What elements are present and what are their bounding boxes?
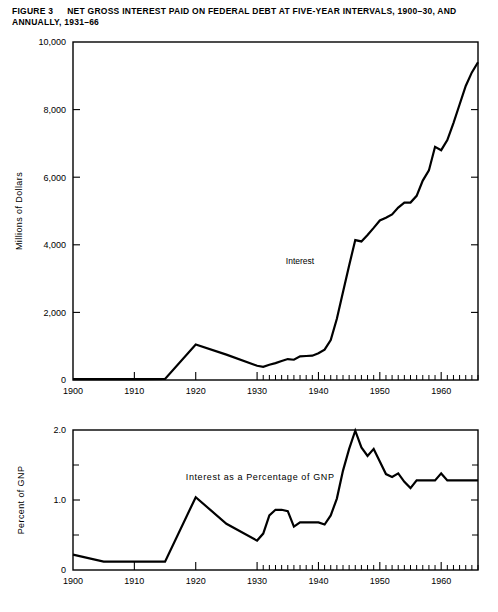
y-tick-label: 2.0 xyxy=(53,425,66,435)
data-line-interest-pct-gnp xyxy=(73,431,478,562)
x-tick-label: 1910 xyxy=(124,386,144,396)
figure-title-text: NET GROSS INTEREST PAID ON FEDERAL DEBT … xyxy=(12,6,456,27)
y-tick-label: 0 xyxy=(61,565,66,575)
figure-number: FIGURE 3 xyxy=(12,6,53,16)
plot-frame xyxy=(73,42,478,380)
y-axis-title: Millions of Dollars xyxy=(14,172,24,250)
x-tick-label: 1920 xyxy=(186,386,206,396)
y-tick-label: 0 xyxy=(61,375,66,385)
y-tick-label: 4,000 xyxy=(43,240,66,250)
chart-interest-dollars: 02,0004,0006,0008,00010,0001900191019201… xyxy=(0,26,498,398)
x-tick-label: 1930 xyxy=(247,576,267,586)
chart-annotation: Interest as a Percentage of GNP xyxy=(186,472,335,482)
x-tick-label: 1910 xyxy=(124,576,144,586)
x-tick-label: 1950 xyxy=(370,386,390,396)
chart-bottom-canvas: 01.02.01900191019201930194019501960Inter… xyxy=(0,412,498,608)
x-tick-label: 1940 xyxy=(308,386,328,396)
x-tick-label: 1900 xyxy=(63,576,83,586)
chart-top-canvas: 02,0004,0006,0008,00010,0001900191019201… xyxy=(0,26,498,398)
x-tick-label: 1940 xyxy=(308,576,328,586)
chart-interest-percent-gnp: 01.02.01900191019201930194019501960Inter… xyxy=(0,412,498,608)
x-tick-label: 1930 xyxy=(247,386,267,396)
chart-annotation: Interest xyxy=(286,256,315,266)
y-tick-label: 8,000 xyxy=(43,105,66,115)
figure-caption: FIGURE 3NET GROSS INTEREST PAID ON FEDER… xyxy=(12,6,490,28)
y-tick-label: 10,000 xyxy=(38,37,66,47)
x-tick-label: 1960 xyxy=(431,576,451,586)
x-tick-label: 1900 xyxy=(63,386,83,396)
y-axis-title: Percent of GNP xyxy=(16,466,26,535)
y-tick-label: 2,000 xyxy=(43,308,66,318)
x-tick-label: 1950 xyxy=(370,576,390,586)
x-tick-label: 1920 xyxy=(186,576,206,586)
data-line-interest-dollars xyxy=(73,62,478,379)
plot-frame xyxy=(73,430,478,570)
y-tick-label: 1.0 xyxy=(53,495,66,505)
y-tick-label: 6,000 xyxy=(43,173,66,183)
x-tick-label: 1960 xyxy=(431,386,451,396)
